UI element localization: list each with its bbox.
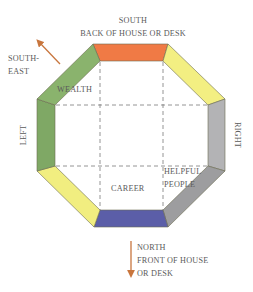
- octagon-segment-top-left: [37, 44, 100, 105]
- north-label: NORTH: [137, 243, 166, 252]
- career-label: CAREER: [111, 184, 145, 193]
- front-of-house-label: FRONT OF HOUSE: [137, 256, 208, 265]
- helpful-people-label-line1: HELPFUL: [164, 167, 201, 176]
- south-label: SOUTH: [119, 16, 147, 25]
- right-label: RIGHT: [233, 122, 242, 148]
- octagon-segment-bottom: [94, 210, 168, 227]
- southeast-label-line2: EAST: [8, 67, 29, 76]
- southeast-label-line1: SOUTH-: [8, 54, 39, 63]
- octagon-segment-left: [37, 99, 55, 171]
- back-of-house-label: BACK OF HOUSE OR DESK: [80, 29, 186, 38]
- octagon-segment-bottom-left: [37, 166, 100, 227]
- octagon-segment-top-right: [163, 44, 225, 105]
- octagon-segment-right: [208, 99, 225, 171]
- helpful-people-label-line2: PEOPLE: [164, 180, 195, 189]
- wealth-label: WEALTH: [57, 85, 92, 94]
- left-label: LEFT: [19, 125, 28, 145]
- octagon-segment-top: [93, 44, 168, 61]
- bagua-octagon-diagram: SOUTH BACK OF HOUSE OR DESK SOUTH- EAST …: [0, 0, 253, 292]
- or-desk-label: OR DESK: [137, 269, 173, 278]
- southeast-arrow: [39, 42, 60, 64]
